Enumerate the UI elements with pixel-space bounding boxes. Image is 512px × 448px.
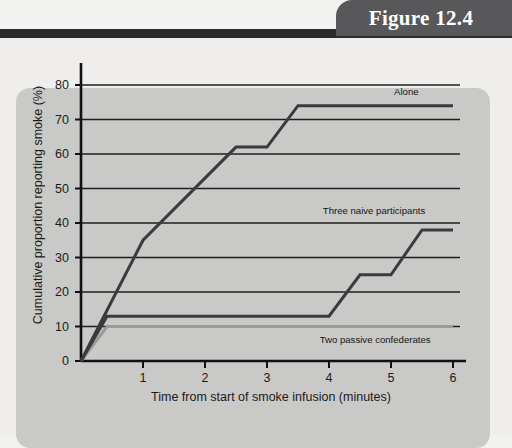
figure-number-tab: Figure 12.4 bbox=[336, 0, 512, 36]
plot-panel bbox=[16, 88, 490, 448]
figure-number-label: Figure 12.4 bbox=[369, 6, 473, 31]
figure-body bbox=[0, 38, 512, 435]
